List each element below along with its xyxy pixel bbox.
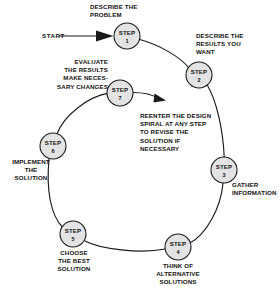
reenter-note-label: REENTER THE DESIGN SPIRAL AT ANY STEP TO… (140, 112, 232, 153)
step-7-title: STEP (112, 86, 129, 93)
reenter-arrowhead-icon (154, 94, 167, 103)
spiral-arc-step3-step4 (189, 183, 223, 244)
step-7-number: 7 (118, 95, 121, 101)
spiral-arc-step1-step2 (140, 40, 189, 68)
step-6-title: STEP (45, 139, 62, 146)
step-5-number: 5 (71, 236, 74, 242)
step-node-3[interactable]: STEP 3 (211, 157, 237, 183)
step-node-2[interactable]: STEP 2 (186, 62, 212, 88)
step-3-title: STEP (216, 163, 233, 170)
step-node-1[interactable]: STEP 1 (114, 23, 140, 49)
step-1-number: 1 (125, 38, 128, 44)
step-5-label: CHOOSE THE BEST SOLUTION (43, 249, 105, 274)
start-label: START (42, 32, 65, 40)
step-6-number: 6 (51, 148, 54, 154)
step-node-6[interactable]: STEP 6 (40, 133, 66, 159)
step-node-7[interactable]: STEP 7 (107, 80, 133, 106)
step-1-label: DESCRIBE THE PROBLEM (90, 3, 138, 19)
spiral-arc-step6-step7 (57, 93, 107, 134)
step-4-title: STEP (170, 240, 187, 247)
step-3-label: GATHER INFORMATION (232, 181, 277, 197)
step-1-title: STEP (119, 29, 136, 36)
step-2-number: 2 (197, 77, 200, 83)
design-spiral-diagram: STEP 1 STEP 2 STEP 3 STEP 4 STEP 5 STEP … (0, 0, 280, 290)
step-4-label: THINK OF ALTERNATIVE SOLUTIONS (147, 262, 209, 287)
step-3-number: 3 (222, 172, 225, 178)
step-2-title: STEP (191, 68, 208, 75)
step-2-label: DESCRIBE THE RESULTS YOU WANT (196, 32, 244, 57)
step-7-label: EVALUATE THE RESULTS MAKE NECES- SARY CH… (48, 58, 108, 91)
start-arrowhead-icon (96, 31, 114, 42)
step-node-4[interactable]: STEP 4 (165, 234, 191, 260)
step-6-label: IMPLEMENT THE SOLUTION (4, 158, 58, 183)
step-5-title: STEP (65, 227, 82, 234)
step-node-5[interactable]: STEP 5 (60, 221, 86, 247)
